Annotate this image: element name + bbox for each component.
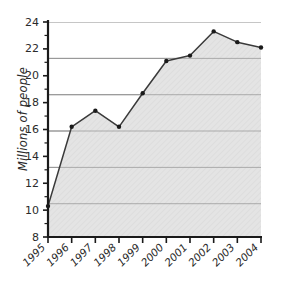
x-tick-label-2001: 2001 [162,241,189,268]
data-point-2004 [259,45,263,49]
y-tick-label-20: 20 [25,69,39,82]
y-tick-label-12: 12 [25,177,39,190]
y-tick-label-16: 16 [25,123,39,136]
y-tick-label-22: 22 [25,42,39,55]
x-tick-label-1999: 1999 [115,241,143,269]
y-axis-ticks: 81012141618202224 [25,16,48,244]
x-axis-ticks: 1995199619971998199920002001200220032004 [20,237,261,268]
area-fill [48,31,261,237]
x-tick-label-1997: 1997 [67,241,95,269]
data-point-1999 [140,91,144,95]
data-point-1997 [93,108,97,112]
x-tick-label-2002: 2002 [186,241,214,269]
x-tick-label-1996: 1996 [44,241,72,269]
data-point-1998 [117,125,121,129]
data-point-1996 [69,125,73,129]
y-tick-label-18: 18 [25,96,39,109]
x-tick-label-1995: 1995 [20,241,48,269]
data-point-2003 [235,40,239,44]
data-point-2000 [164,59,168,63]
y-tick-label-14: 14 [25,150,39,163]
area-chart-plot: 81012141618202224 1995199619971998199920… [0,0,300,281]
x-tick-label-1998: 1998 [91,241,119,269]
y-tick-label-10: 10 [25,204,39,217]
data-point-2001 [188,53,192,57]
x-tick-label-2003: 2003 [209,241,236,268]
data-point-2002 [211,29,215,33]
x-tick-label-2004: 2004 [233,241,260,268]
y-tick-label-24: 24 [25,16,39,29]
x-tick-label-2000: 2000 [138,241,166,269]
chart-container: Millions of people [0,0,300,281]
